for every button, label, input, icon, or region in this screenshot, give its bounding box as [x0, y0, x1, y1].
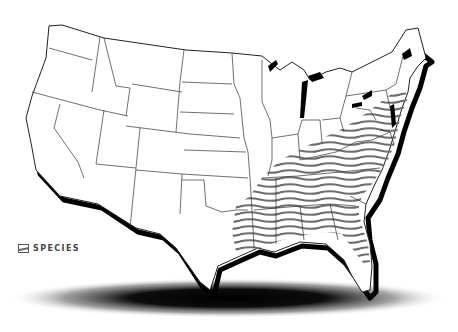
legend-label-species: SPECIES [33, 244, 80, 253]
us-map [0, 0, 458, 332]
species-swatch-icon [18, 244, 29, 253]
ground-shadow [8, 278, 448, 318]
legend: SPECIES [18, 244, 80, 253]
